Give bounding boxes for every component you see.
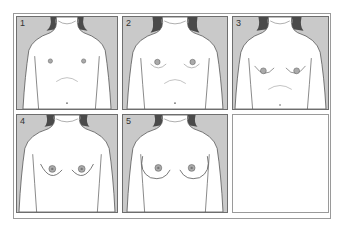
torso-illustration-3 [233, 17, 328, 109]
empty-panel [232, 114, 329, 213]
torso-illustration-4 [17, 115, 117, 212]
stage-panel-3: 3 [232, 16, 329, 110]
stage-number: 5 [126, 117, 131, 126]
stage-number: 3 [236, 19, 241, 28]
stage-number: 2 [126, 19, 131, 28]
torso-illustration-2 [123, 17, 227, 109]
torso-illustration-1 [17, 17, 117, 109]
stage-panel-4: 4 [16, 114, 118, 213]
stage-number: 1 [20, 19, 25, 28]
torso-illustration-5 [123, 115, 227, 212]
stage-number: 4 [20, 117, 25, 126]
stage-panel-5: 5 [122, 114, 228, 213]
stage-panel-2: 2 [122, 16, 228, 110]
stage-panel-1: 1 [16, 16, 118, 110]
